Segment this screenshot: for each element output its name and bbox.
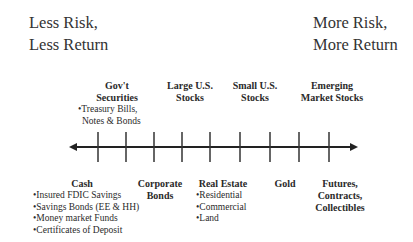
label-line: Corporate	[135, 178, 185, 190]
bullet-item: •Certificates of Deposit	[33, 225, 139, 237]
cash-bullets: •Insured FDIC Savings •Savings Bonds (EE…	[33, 190, 139, 236]
left-arrow-icon	[69, 143, 77, 151]
label-line: Futures,	[310, 178, 370, 190]
corporate-bonds-label: Corporate Bonds	[135, 178, 185, 202]
label-line: Bonds	[135, 190, 185, 202]
label-line: Gold	[270, 178, 300, 190]
bullet-item: •Money market Funds	[33, 213, 139, 225]
bullet-item: •Land	[196, 213, 246, 225]
real-estate-label: Real Estate	[198, 178, 248, 190]
futures-label: Futures, Contracts, Collectibles	[310, 178, 370, 214]
bullet-item: •Residential	[196, 190, 246, 202]
label-line: Collectibles	[310, 202, 370, 214]
label-line: Cash	[62, 178, 102, 190]
gold-label: Gold	[270, 178, 300, 190]
label-line: Real Estate	[198, 178, 248, 190]
cash-label: Cash	[62, 178, 102, 190]
real-estate-bullets: •Residential •Commercial •Land	[196, 190, 246, 225]
label-line: Contracts,	[310, 190, 370, 202]
bullet-item: •Commercial	[196, 202, 246, 214]
right-arrow-icon	[350, 143, 358, 151]
bullet-item: •Insured FDIC Savings	[33, 190, 139, 202]
bullet-item: •Savings Bonds (EE & HH)	[33, 202, 139, 214]
